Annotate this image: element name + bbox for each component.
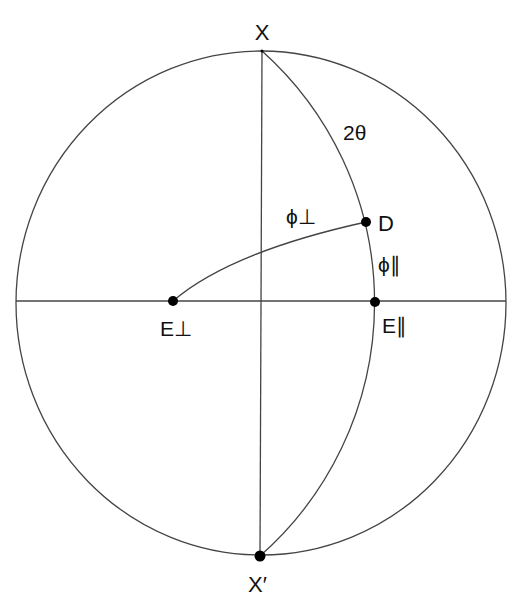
point-e-parallel xyxy=(370,297,380,307)
stereogram-diagram: X 2θ D ϕ⊥ ϕ∥ E⊥ E∥ X′ xyxy=(0,0,520,613)
point-x-prime xyxy=(255,551,266,562)
label-2theta: 2θ xyxy=(343,121,366,144)
label-x-prime: X′ xyxy=(248,572,267,597)
point-d xyxy=(361,217,371,227)
label-e-perp: E⊥ xyxy=(160,317,192,340)
label-phi-perp: ϕ⊥ xyxy=(286,205,316,228)
point-x xyxy=(261,50,264,53)
label-e-parallel: E∥ xyxy=(382,314,407,338)
label-d: D xyxy=(378,211,394,236)
label-x: X xyxy=(255,20,270,45)
arc-e-perp-to-d xyxy=(173,222,366,301)
label-phi-parallel: ϕ∥ xyxy=(378,253,401,277)
point-e-perp xyxy=(168,296,178,306)
vertical-diameter xyxy=(260,51,262,556)
